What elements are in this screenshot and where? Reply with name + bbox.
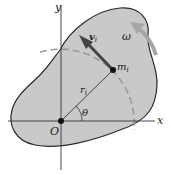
origin-point bbox=[58, 118, 64, 124]
x-axis-label: x bbox=[157, 114, 164, 127]
y-axis-label: y bbox=[54, 1, 62, 14]
omega-label: ω bbox=[122, 30, 131, 43]
angle-label: θ bbox=[82, 107, 88, 118]
mass-point bbox=[110, 67, 116, 73]
rigid-body-diagram: y x O θ ω vi mi ri bbox=[0, 0, 171, 175]
origin-label: O bbox=[50, 125, 59, 138]
